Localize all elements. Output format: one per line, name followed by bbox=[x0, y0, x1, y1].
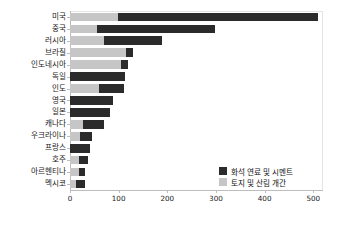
bar-segment bbox=[70, 120, 83, 129]
legend-item: 토지 및 산림 개간 bbox=[219, 177, 293, 187]
bar-row bbox=[0, 59, 353, 71]
x-axis-label: 200 bbox=[152, 194, 182, 203]
x-axis-tick bbox=[119, 190, 120, 193]
bar-row bbox=[0, 35, 353, 47]
bar-segment bbox=[70, 13, 118, 22]
bar-segment bbox=[70, 72, 125, 81]
bar-row bbox=[0, 23, 353, 35]
x-axis-tick bbox=[167, 190, 168, 193]
x-axis-tick bbox=[216, 190, 217, 193]
legend-item: 화석 연료 및 시멘트 bbox=[219, 166, 293, 176]
x-axis-tick bbox=[265, 190, 266, 193]
x-axis-label: 100 bbox=[104, 194, 134, 203]
bar-segment bbox=[104, 36, 162, 45]
bar-row bbox=[0, 47, 353, 59]
bar-segment bbox=[97, 25, 215, 34]
x-axis-tick bbox=[70, 190, 71, 193]
bar-segment bbox=[70, 108, 110, 117]
bar-row bbox=[0, 95, 353, 107]
bar-segment bbox=[80, 132, 92, 141]
bar-row bbox=[0, 166, 353, 178]
bar-row bbox=[0, 11, 353, 23]
x-axis-label: 500 bbox=[298, 194, 328, 203]
bar-segment bbox=[126, 48, 133, 57]
bar-row bbox=[0, 130, 353, 142]
bar-segment bbox=[70, 84, 99, 93]
bar-row bbox=[0, 71, 353, 83]
bar-chart: 미국중국러시아브라질인도네시아독일인도영국일본캐나다우크라이나프랑스호주아르헨티… bbox=[0, 0, 353, 229]
bar-segment bbox=[70, 144, 90, 153]
bar-segment bbox=[121, 60, 128, 69]
bar-segment bbox=[70, 156, 79, 165]
bar-segment bbox=[76, 180, 85, 189]
legend-label: 토지 및 산림 개간 bbox=[231, 177, 286, 188]
bar-row bbox=[0, 142, 353, 154]
bar-row bbox=[0, 178, 353, 190]
legend-swatch-icon bbox=[219, 167, 227, 175]
bar-segment bbox=[99, 84, 124, 93]
legend-label: 화석 연료 및 시멘트 bbox=[231, 166, 293, 177]
x-axis-label: 400 bbox=[250, 194, 280, 203]
x-axis-label: 300 bbox=[201, 194, 231, 203]
chart-legend: 화석 연료 및 시멘트토지 및 산림 개간 bbox=[219, 166, 293, 188]
bar-segment bbox=[70, 168, 79, 177]
x-axis-label: 0 bbox=[55, 194, 85, 203]
bar-segment bbox=[70, 96, 113, 105]
bar-segment bbox=[70, 132, 80, 141]
x-axis-tick bbox=[313, 190, 314, 193]
bar-row bbox=[0, 106, 353, 118]
bar-row bbox=[0, 154, 353, 166]
bar-segment bbox=[70, 48, 126, 57]
bar-row bbox=[0, 83, 353, 95]
bar-segment bbox=[70, 25, 97, 34]
bar-segment bbox=[70, 36, 104, 45]
bar-row bbox=[0, 118, 353, 130]
legend-swatch-icon bbox=[219, 178, 227, 186]
bar-segment bbox=[83, 120, 104, 129]
bar-segment bbox=[70, 60, 121, 69]
bar-segment bbox=[79, 168, 85, 177]
bar-segment bbox=[79, 156, 88, 165]
x-axis-line bbox=[70, 190, 323, 191]
bar-segment bbox=[118, 13, 318, 22]
